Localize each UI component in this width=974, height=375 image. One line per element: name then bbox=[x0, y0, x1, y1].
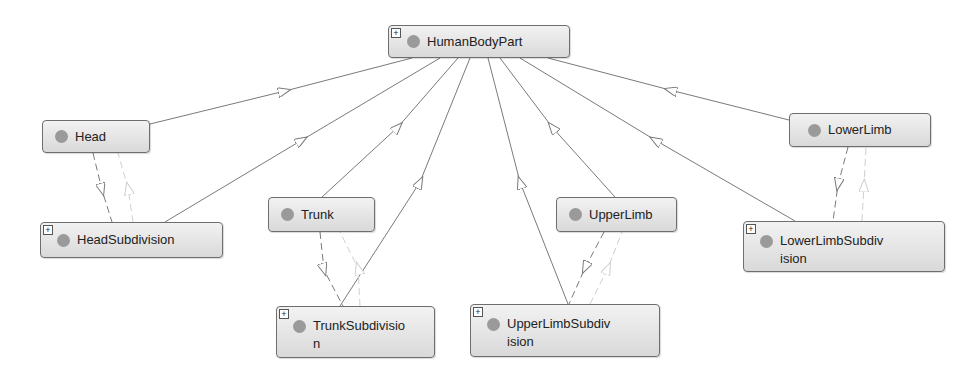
class-icon bbox=[293, 320, 306, 333]
edge-upperlimbsubdivision-to-upperlimb bbox=[590, 232, 622, 304]
edge-trunksubdivision-to-trunk bbox=[340, 232, 360, 306]
expand-icon[interactable]: + bbox=[473, 307, 483, 317]
edge-trunk-to-trunksubdivision bbox=[320, 232, 343, 306]
class-icon bbox=[808, 124, 821, 137]
edge-lowerlimb-to-humanbodypart bbox=[548, 58, 789, 120]
node-lowerlimbsubdivision[interactable]: + LowerLimbSubdiv ision bbox=[743, 221, 945, 272]
node-label: UpperLimbSubdiv ision bbox=[507, 315, 610, 351]
node-label: LowerLimb bbox=[828, 121, 892, 139]
expand-icon[interactable]: + bbox=[43, 225, 53, 235]
node-label: HumanBodyPart bbox=[427, 33, 522, 51]
node-label: HeadSubdivision bbox=[77, 231, 175, 249]
expand-icon[interactable]: + bbox=[391, 28, 401, 38]
class-icon bbox=[407, 35, 420, 48]
edge-headsubdivision-to-head bbox=[118, 153, 133, 222]
expand-icon[interactable]: + bbox=[746, 224, 756, 234]
node-lowerlimb[interactable]: LowerLimb bbox=[789, 113, 931, 147]
node-upperlimb[interactable]: UpperLimb bbox=[556, 197, 677, 232]
node-label-line-2: ision bbox=[780, 251, 807, 266]
node-head[interactable]: Head bbox=[42, 120, 150, 153]
node-label-line-1: TrunkSubdivisio bbox=[313, 318, 405, 333]
node-label-line-1: LowerLimbSubdiv bbox=[780, 233, 883, 248]
node-label: Trunk bbox=[301, 206, 334, 224]
edge-head-to-headsubdivision bbox=[93, 153, 112, 222]
node-label: LowerLimbSubdiv ision bbox=[780, 232, 883, 268]
class-icon bbox=[57, 234, 70, 247]
class-icon bbox=[281, 208, 294, 221]
node-trunk[interactable]: Trunk bbox=[268, 197, 375, 232]
edge-lowerlimb-to-lowerlimbsubdivision bbox=[833, 147, 848, 221]
expand-icon[interactable]: + bbox=[279, 309, 289, 319]
node-trunksubdivision[interactable]: + TrunkSubdivisio n bbox=[276, 306, 435, 358]
node-humanbodypart[interactable]: + HumanBodyPart bbox=[388, 25, 570, 58]
node-label: UpperLimb bbox=[589, 206, 653, 224]
edge-trunk-to-humanbodypart bbox=[322, 58, 458, 197]
node-label-line-1: UpperLimbSubdiv bbox=[507, 316, 610, 331]
class-icon bbox=[760, 235, 773, 248]
node-label: Head bbox=[75, 128, 106, 146]
edge-upperlimb-to-humanbodypart bbox=[500, 58, 615, 197]
node-label: TrunkSubdivisio n bbox=[313, 317, 405, 353]
edge-head-to-humanbodypart bbox=[150, 58, 412, 124]
node-headsubdivision[interactable]: + HeadSubdivision bbox=[40, 222, 223, 258]
node-label-line-2: ision bbox=[507, 334, 534, 349]
edge-upperlimb-to-upperlimbsubdivision bbox=[569, 232, 604, 304]
node-label-line-2: n bbox=[313, 336, 320, 351]
class-icon bbox=[55, 130, 68, 143]
edge-trunksubdivision-to-humanbodypart bbox=[340, 58, 470, 306]
edge-lowerlimbsubdivision-to-lowerlimb bbox=[862, 147, 866, 221]
class-icon bbox=[487, 318, 500, 331]
class-icon bbox=[569, 208, 582, 221]
node-upperlimbsubdivision[interactable]: + UpperLimbSubdiv ision bbox=[470, 304, 660, 357]
